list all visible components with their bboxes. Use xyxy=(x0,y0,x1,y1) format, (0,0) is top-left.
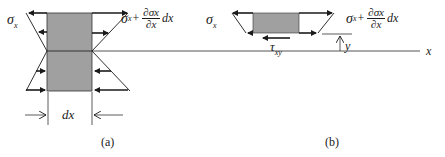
panel-b-caption: (b) xyxy=(325,136,339,148)
panel-b-tau-xy-label: τxy xyxy=(270,40,282,57)
panel-a-caption: (a) xyxy=(101,136,114,148)
panel-a-left-stress-distribution xyxy=(26,13,47,91)
panel-b-sigma-x-plus-derivative-label: σx + ∂σx∂x dx xyxy=(346,7,398,30)
panel-b-sigma-x-label: σx xyxy=(206,13,216,30)
panel-b-element xyxy=(253,13,299,33)
panel-a-element xyxy=(47,13,92,91)
panel-a-left-arrows xyxy=(26,13,47,90)
panel-b-y-label: y xyxy=(345,40,350,52)
panel-a-sigma-x-plus-derivative-label: σx + ∂σx∂x dx xyxy=(121,7,173,30)
x-axis-label: x xyxy=(426,45,431,57)
panel-a-dx-label: dx xyxy=(62,108,74,121)
panel-a-sigma-x-label: σx xyxy=(7,13,17,30)
